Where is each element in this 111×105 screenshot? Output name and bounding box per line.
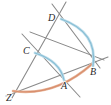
- figure-canvas: D C B A Z: [0, 0, 111, 105]
- label-point-a: A: [60, 80, 68, 91]
- arc-d-b-halo: [61, 19, 94, 66]
- label-point-d: D: [47, 12, 56, 23]
- geometry-figure: D C B A Z: [0, 0, 111, 105]
- label-point-z: Z: [6, 92, 12, 103]
- label-point-b: B: [90, 66, 96, 77]
- label-point-c: C: [23, 45, 30, 56]
